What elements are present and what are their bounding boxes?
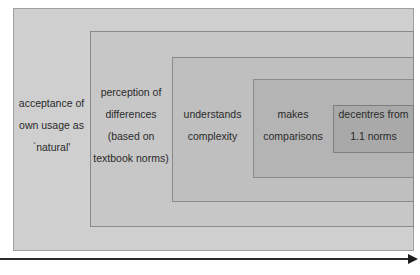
stage-3-label: understands complexity [172,103,253,147]
stage-5-line-1: decentres from [333,103,414,125]
stage-3-line-2: complexity [172,125,253,147]
stage-2-line-3: (based on [90,125,172,147]
progression-arrow-line [0,258,410,260]
stage-4-line-1: makes [253,103,333,125]
stage-1-label: acceptance of own usage as `natural' [13,92,90,158]
stage-1-line-2: own usage as [13,114,90,136]
stage-2-line-1: perception of [90,81,172,103]
stage-4-label: makes comparisons [253,103,333,147]
stage-2-label: perception of differences (based on text… [90,81,172,169]
stage-2-line-4: textbook norms) [90,147,172,169]
stage-4-line-2: comparisons [253,125,333,147]
stage-5-label: decentres from 1.1 norms [333,103,414,147]
arrow-right-icon [408,254,418,264]
stage-1-line-1: acceptance of [13,92,90,114]
stage-1-line-3: `natural' [13,136,90,158]
stage-3-line-1: understands [172,103,253,125]
stage-5-line-2: 1.1 norms [333,125,414,147]
stage-2-line-2: differences [90,103,172,125]
